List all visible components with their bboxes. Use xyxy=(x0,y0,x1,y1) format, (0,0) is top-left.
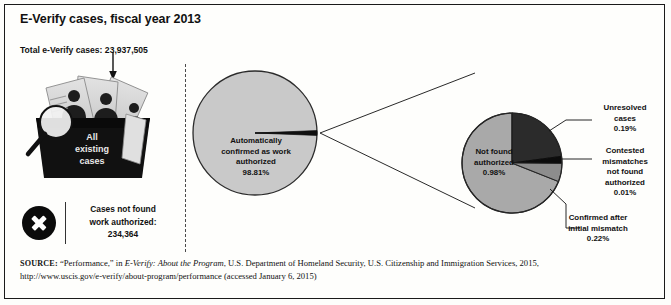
not-found-line1: Not found xyxy=(455,147,533,158)
source-note: SOURCE: “Performance,” in E-Verify: Abou… xyxy=(20,257,650,283)
cases-not-found-callout: Cases not found work authorized: 234,364 xyxy=(22,200,172,248)
callout-line-1: Cases not found xyxy=(73,203,173,216)
confirmed-after-line2: initial mismatch xyxy=(548,224,648,235)
explosion-connectors xyxy=(320,73,475,208)
contested-line3: not found xyxy=(593,167,657,178)
source-prefix: SOURCE: xyxy=(20,259,58,268)
main-label-line3: authorized xyxy=(206,157,306,168)
source-line1b: , U.S. Department of Homeland Security, … xyxy=(224,258,539,268)
detail-unresolved-label: Unresolved cases 0.19% xyxy=(593,103,657,135)
main-label-line2: confirmed as work xyxy=(206,147,306,158)
not-found-line2: authorized xyxy=(455,158,533,169)
not-found-pct: 0.98% xyxy=(455,168,533,179)
main-pie-label: Automatically confirmed as work authoriz… xyxy=(206,136,306,178)
confirmed-after-line1: Confirmed after xyxy=(548,213,648,224)
unresolved-pct: 0.19% xyxy=(593,124,657,135)
contested-line1: Contested xyxy=(593,146,657,157)
figure-container: E-Verify cases, fiscal year 2013 Total e… xyxy=(0,0,671,305)
illustration-label-line1: All xyxy=(86,132,98,142)
x-circle-icon xyxy=(22,206,56,240)
detail-contested-label: Contested mismatches not found authorize… xyxy=(593,146,657,199)
detail-not-found-label: Not found authorized 0.98% xyxy=(455,147,533,179)
callout-divider xyxy=(65,202,66,244)
detail-confirmed-after-label: Confirmed after initial mismatch 0.22% xyxy=(548,213,648,245)
total-cases-label: Total e-Verify cases: 23,937,505 xyxy=(20,45,148,55)
contested-line4: authorized xyxy=(593,178,657,189)
cases-not-found-text: Cases not found work authorized: 234,364 xyxy=(73,203,173,241)
page-title: E-Verify cases, fiscal year 2013 xyxy=(20,12,201,26)
illustration-label-line2: existing xyxy=(75,144,109,154)
main-label-pct: 98.81% xyxy=(206,168,306,179)
main-label-line1: Automatically xyxy=(206,136,306,147)
existing-cases-illustration: All existing cases xyxy=(22,72,172,190)
callout-line-2: work authorized: xyxy=(73,216,173,229)
confirmed-after-pct: 0.22% xyxy=(548,234,648,245)
contested-line2: mismatches xyxy=(593,157,657,168)
illustration-label-line3: cases xyxy=(79,156,104,166)
source-line2: http://www.uscis.gov/e-verify/about-prog… xyxy=(20,270,650,282)
unresolved-line2: cases xyxy=(593,114,657,125)
source-title-italic: E-Verify: About the Program xyxy=(125,258,224,268)
source-line1a: “Performance,” in xyxy=(58,258,125,268)
contested-pct: 0.01% xyxy=(593,188,657,199)
unresolved-line1: Unresolved xyxy=(593,103,657,114)
callout-line-3: 234,364 xyxy=(73,228,173,241)
